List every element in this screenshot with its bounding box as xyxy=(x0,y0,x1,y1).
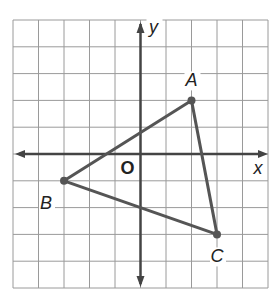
labels: ABCyxO xyxy=(39,17,267,266)
axes xyxy=(15,22,268,287)
x-axis-label: x xyxy=(253,158,264,178)
x-axis-left-arrow-icon xyxy=(15,150,25,158)
segment-ca xyxy=(192,100,218,234)
coordinate-plane: ABCyxO xyxy=(0,0,280,304)
y-axis-up-arrow-icon xyxy=(137,22,145,33)
vertex-a-dot xyxy=(188,96,196,104)
x-axis-right-arrow-icon xyxy=(258,150,268,158)
label-b: B xyxy=(40,193,52,213)
y-axis-label: y xyxy=(147,17,159,37)
label-a: A xyxy=(184,70,197,90)
origin-label: O xyxy=(120,158,134,178)
vertex-b-dot xyxy=(60,177,68,185)
vertex-c-dot xyxy=(213,230,221,238)
y-axis-down-arrow-icon xyxy=(137,276,145,287)
label-c: C xyxy=(211,246,225,266)
